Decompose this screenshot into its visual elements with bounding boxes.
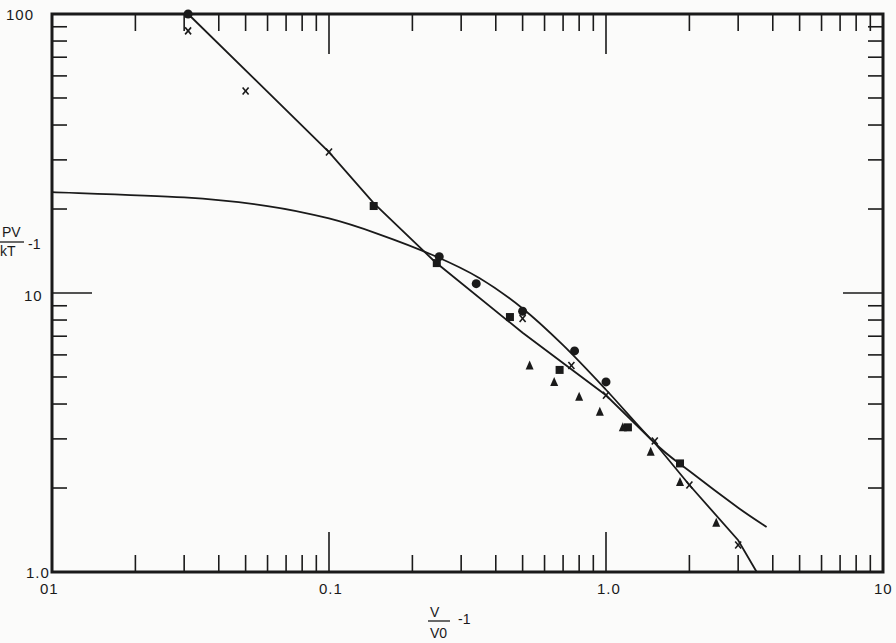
circle-marker (602, 377, 611, 386)
circle-marker (570, 346, 579, 355)
x-marker (686, 482, 692, 489)
x-marker (185, 27, 191, 34)
y-axis-label-numerator: PV (2, 224, 21, 240)
x-marker (243, 87, 249, 94)
x-axis-label-suffix: -1 (458, 611, 471, 627)
straight-line-fit (188, 14, 757, 572)
triangle-marker (647, 447, 655, 456)
x-tick-label-10: 10 (874, 580, 893, 597)
x-tick-label-001: 01 (40, 580, 59, 597)
y-axis-label-suffix: -1 (28, 236, 41, 252)
x-axis-label-denominator: V0 (430, 625, 447, 641)
square-marker (556, 366, 564, 374)
x-axis-label: V V0 -1 (428, 604, 471, 641)
x-marker (520, 315, 526, 322)
theory-curve (52, 192, 767, 527)
x-marker (568, 362, 574, 369)
circle-marker (184, 10, 193, 19)
x-tick-label-01: 0.1 (319, 580, 343, 597)
circle-marker (518, 307, 527, 316)
y-tick-label-10: 10 (24, 287, 43, 304)
triangle-marker (575, 392, 583, 401)
y-axis-label: PV kT -1 (0, 224, 41, 259)
x-tick-label-1: 1.0 (597, 580, 621, 597)
y-tick-label-1: 1.0 (26, 564, 50, 581)
square-marker (506, 313, 514, 321)
chart: 100 10 1.0 01 0.1 1.0 10 PV kT -1 V V0 -… (0, 0, 896, 643)
fit-curves (52, 14, 767, 572)
y-tick-label-100: 100 (6, 6, 34, 23)
square-marker (370, 202, 378, 210)
circle-marker (472, 279, 481, 288)
x-marker (326, 149, 332, 156)
square-marker (676, 459, 684, 467)
x-marker (603, 392, 609, 399)
plot-border (52, 14, 883, 572)
triangle-marker (596, 407, 604, 416)
triangle-marker (526, 360, 534, 369)
y-axis-label-denominator: kT (0, 243, 16, 259)
axis-ticks (52, 14, 883, 572)
triangle-marker (676, 477, 684, 486)
plot-frame (52, 14, 883, 572)
x-axis-label-numerator: V (430, 604, 440, 620)
square-marker (433, 259, 441, 267)
triangle-marker (550, 377, 558, 386)
